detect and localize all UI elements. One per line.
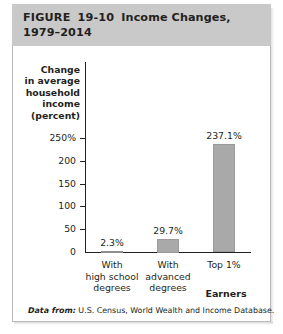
bar-with-advanced-degrees <box>157 239 179 253</box>
y-tick-label-250: 250% <box>28 133 76 143</box>
y-axis-title-line-2: in average <box>12 75 80 86</box>
bar-top-1-percent <box>213 144 235 252</box>
y-tick-label-150: 150 <box>28 179 76 189</box>
source-text: U.S. Census, World Wealth and Income Dat… <box>76 306 274 315</box>
bar-value-with-high-school-degrees: 2.3% <box>85 238 139 248</box>
x-category-label-top-1-percent: Top 1% <box>187 259 261 271</box>
y-axis-title-line-5: (percent) <box>12 110 80 121</box>
y-tick-50 <box>80 229 85 230</box>
y-tick-label-50: 50 <box>28 224 76 234</box>
y-tick-label-100: 100 <box>28 201 76 211</box>
bar-value-with-advanced-degrees: 29.7% <box>141 226 195 236</box>
bar-with-high-school-degrees <box>101 251 123 253</box>
x-axis-title: Earners <box>195 288 257 299</box>
y-axis-title-line-3: household <box>12 87 80 98</box>
y-tick-100 <box>80 206 85 207</box>
source-prefix: Data from: <box>28 306 76 315</box>
y-tick-150 <box>80 184 85 185</box>
cat2-line3: degrees <box>131 282 205 294</box>
y-axis-title: Change in average household income (perc… <box>12 64 80 121</box>
y-tick-250 <box>80 138 85 139</box>
chart-plot-area: Change in average household income (perc… <box>0 0 283 334</box>
y-tick-label-0: 0 <box>28 247 76 257</box>
bar-value-top-1-percent: 237.1% <box>197 131 251 141</box>
source-note: Data from: U.S. Census, World Wealth and… <box>28 306 274 316</box>
figure-container: FIGURE19-10Income Changes, 1979–2014 Cha… <box>0 0 283 334</box>
cat2-line2: advanced <box>131 271 205 283</box>
cat3-line1: Top 1% <box>187 259 261 271</box>
y-axis-line <box>85 62 86 253</box>
y-tick-label-200: 200 <box>28 156 76 166</box>
y-tick-200 <box>80 161 85 162</box>
y-axis-title-line-4: income <box>12 98 80 109</box>
y-axis-title-line-1: Change <box>12 64 80 75</box>
